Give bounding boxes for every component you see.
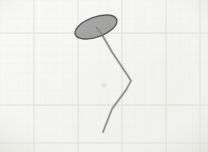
- scan-vignette: [0, 0, 208, 152]
- sketch-image: [0, 0, 208, 152]
- sketch-canvas: Graph paper sketch of a dish-like ellips…: [0, 0, 208, 152]
